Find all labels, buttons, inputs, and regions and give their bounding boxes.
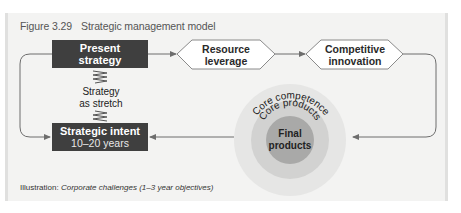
competitive-innovation-label: Competitive innovation	[318, 40, 392, 69]
diagram-canvas: Core competence Core products	[0, 0, 461, 213]
strategy-as-stretch-label: Strategy as stretch	[78, 86, 124, 110]
strategic-intent-label: Strategic intent 10–20 years	[52, 123, 148, 151]
present-strategy-line2: strategy	[79, 54, 122, 66]
stretch-spring-top-icon	[93, 71, 107, 83]
strategic-intent-line1: Strategic intent	[60, 125, 140, 137]
caption-text: Corporate challenges (1–3 year objective…	[61, 183, 214, 192]
figure-caption: Illustration: Corporate challenges (1–3 …	[20, 183, 213, 192]
final-products-label: Final products	[266, 128, 314, 152]
final-products-line2: products	[266, 140, 314, 152]
resource-leverage-label: Resource leverage	[190, 40, 262, 69]
competitive-innovation-line1: Competitive	[325, 43, 385, 55]
strategy-stretch-line1: Strategy	[78, 86, 124, 98]
caption-prefix: Illustration:	[20, 183, 59, 192]
strategic-intent-line2: 10–20 years	[71, 137, 129, 149]
strategy-stretch-line2: as stretch	[78, 98, 124, 110]
arrow-present-to-intent-loop	[20, 54, 52, 137]
resource-leverage-line1: Resource	[202, 43, 250, 55]
competitive-innovation-line2: innovation	[328, 55, 381, 67]
resource-leverage-line2: leverage	[205, 55, 248, 67]
stretch-spring-bottom-icon	[93, 111, 107, 121]
present-strategy-line1: Present	[80, 42, 120, 54]
final-products-line1: Final	[266, 128, 314, 140]
present-strategy-label: Present strategy	[52, 40, 148, 68]
